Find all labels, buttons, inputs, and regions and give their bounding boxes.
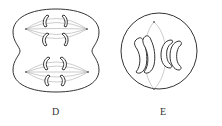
cell-division-figure <box>0 0 222 126</box>
panel-label-d: D <box>52 107 59 117</box>
chromosomes-d-upper <box>43 15 69 46</box>
chromosomes-e-left <box>135 36 155 73</box>
panel-e <box>121 13 197 90</box>
cell-d-membrane <box>13 9 99 92</box>
cell-e-membrane <box>121 13 197 89</box>
panel-label-e: E <box>160 107 166 117</box>
chromosomes-e-right <box>161 40 181 70</box>
upper-spindle <box>26 19 87 39</box>
chromosomes-d-lower <box>44 57 67 86</box>
lower-spindle <box>26 62 88 82</box>
panel-d <box>13 9 99 92</box>
